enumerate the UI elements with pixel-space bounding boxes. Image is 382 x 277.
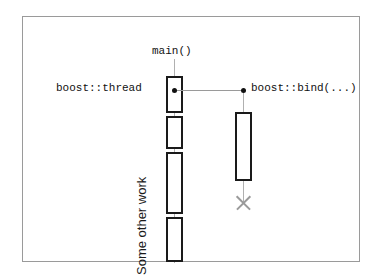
label-boost-bind: boost::bind(...) (251, 82, 357, 94)
label-main: main() (152, 45, 192, 57)
activation-box-worker-1 (235, 112, 252, 181)
label-some-other-work: Some other work (134, 177, 149, 275)
message-connector-line (174, 90, 243, 91)
activation-box-main-4 (166, 217, 183, 262)
label-boost-thread: boost::thread (56, 82, 142, 94)
thread-termination-x-icon (234, 193, 253, 212)
activation-box-main-3 (166, 152, 183, 214)
message-target-dot (241, 88, 246, 93)
diagram-canvas: main() boost::thread boost::bind(...) So… (0, 0, 382, 277)
activation-box-main-2 (166, 116, 183, 149)
diagram-frame: main() boost::thread boost::bind(...) So… (22, 16, 360, 262)
message-origin-dot (172, 88, 177, 93)
activation-box-main-1 (166, 76, 183, 113)
